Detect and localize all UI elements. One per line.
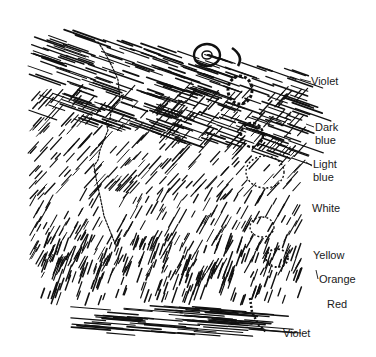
label-red: Red: [327, 298, 347, 311]
hatched-illustration: Violet Dark blue Light blue White Yellow…: [0, 0, 376, 357]
label-violet-bottom: Violet: [283, 327, 310, 340]
label-dark-blue-line2: blue: [315, 134, 338, 147]
label-orange: Orange: [319, 273, 356, 286]
label-white: White: [312, 202, 340, 215]
label-dark-blue: Dark blue: [315, 121, 338, 147]
label-light-blue-line1: Light: [313, 158, 337, 171]
label-light-blue-line2: blue: [313, 171, 337, 184]
label-yellow: Yellow: [313, 249, 344, 262]
label-dark-blue-line1: Dark: [315, 121, 338, 134]
label-light-blue: Light blue: [313, 158, 337, 184]
label-violet-top: Violet: [311, 75, 338, 88]
